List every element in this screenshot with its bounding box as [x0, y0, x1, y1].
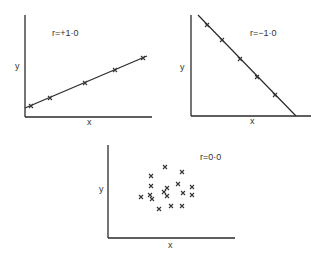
chart-positive-correlation: r=+1·0 y x	[15, 15, 152, 127]
data-points	[139, 165, 194, 211]
y-axis-label: y	[180, 62, 185, 72]
correlation-figure: r=+1·0 y x r=−1·0 y x	[0, 0, 328, 262]
fit-line	[198, 15, 296, 116]
correlation-label: r=−1·0	[250, 28, 277, 38]
x-axis-label: x	[250, 116, 255, 126]
y-axis-label: y	[15, 61, 20, 71]
chart-negative-correlation: r=−1·0 y x	[180, 15, 311, 126]
x-axis-label: x	[168, 240, 173, 250]
chart-no-correlation: r=0·0 y x	[99, 145, 235, 250]
correlation-label: r=+1·0	[52, 28, 79, 38]
x-axis-label: x	[87, 117, 92, 127]
correlation-label: r=0·0	[200, 152, 221, 162]
y-axis-label: y	[99, 184, 104, 194]
